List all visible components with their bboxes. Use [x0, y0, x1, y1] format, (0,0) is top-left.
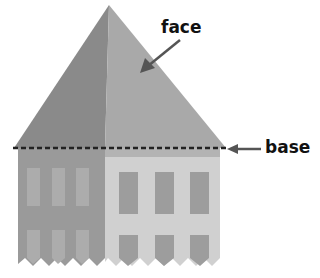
face-arrow-shaft — [148, 40, 180, 66]
base-arrow-head — [227, 144, 238, 154]
pyramid-left-face — [14, 5, 109, 148]
left-window — [27, 168, 40, 206]
right-wall-shadow — [105, 148, 220, 157]
right-pennant — [155, 235, 174, 266]
right-window — [155, 172, 174, 214]
left-window — [76, 168, 89, 206]
right-window — [119, 172, 138, 214]
base-label: base — [265, 139, 310, 156]
right-window — [190, 172, 209, 214]
left-window — [52, 168, 65, 206]
left-pennant — [76, 230, 89, 264]
left-pennant — [27, 230, 40, 264]
left-pennant — [52, 230, 65, 264]
face-label: face — [161, 19, 201, 36]
